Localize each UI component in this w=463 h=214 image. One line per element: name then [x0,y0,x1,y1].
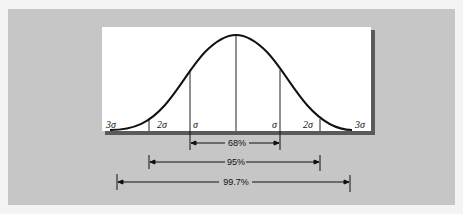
bell-curve-diagram: 3σ 2σ σ σ 2σ 3σ 68% 95% 99.7% [0,0,463,214]
label-plus-2sigma: 2σ [303,119,314,130]
interval-68-label: 68% [228,138,246,148]
label-minus-2sigma: 2σ [157,119,168,130]
label-plus-3sigma: 3σ [354,119,366,130]
interval-95-label: 95% [227,157,245,167]
interval-99-7-label: 99.7% [223,177,249,187]
label-minus-3sigma: 3σ [105,119,117,130]
